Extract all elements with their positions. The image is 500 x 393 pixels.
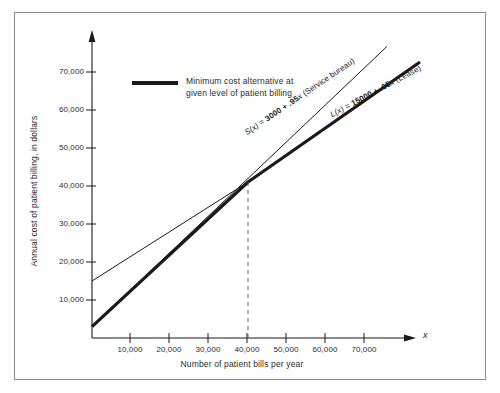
y-tick-label: 50,000	[38, 143, 84, 152]
x-axis	[92, 335, 416, 342]
y-tick-label: 30,000	[38, 219, 84, 228]
y-axis	[89, 30, 96, 338]
x-tick-label: 70,000	[341, 345, 387, 354]
y-tick-label: 70,000	[38, 67, 84, 76]
legend-label-minimum-cost: Minimum cost alternative at given level …	[186, 76, 294, 99]
x-variable-label: x	[423, 330, 428, 340]
y-tick-label: 40,000	[38, 181, 84, 190]
y-axis-title: Annual cost of patient billing, in dolla…	[29, 96, 39, 286]
chart-legend: Minimum cost alternative at given level …	[132, 76, 294, 99]
series-line-lease-thin	[92, 182, 248, 281]
y-tick-label: 20,000	[38, 257, 84, 266]
series-line-minimum-cost	[92, 62, 420, 327]
figure-container: 10,000 20,000 30,000 40,000 50,000 60,00…	[0, 0, 500, 393]
y-tick-label: 10,000	[38, 295, 84, 304]
y-axis-ticks	[86, 72, 96, 300]
y-tick-label: 60,000	[38, 105, 84, 114]
legend-swatch-minimum-cost	[132, 81, 178, 85]
x-axis-title: Number of patient bills per year	[122, 359, 362, 369]
